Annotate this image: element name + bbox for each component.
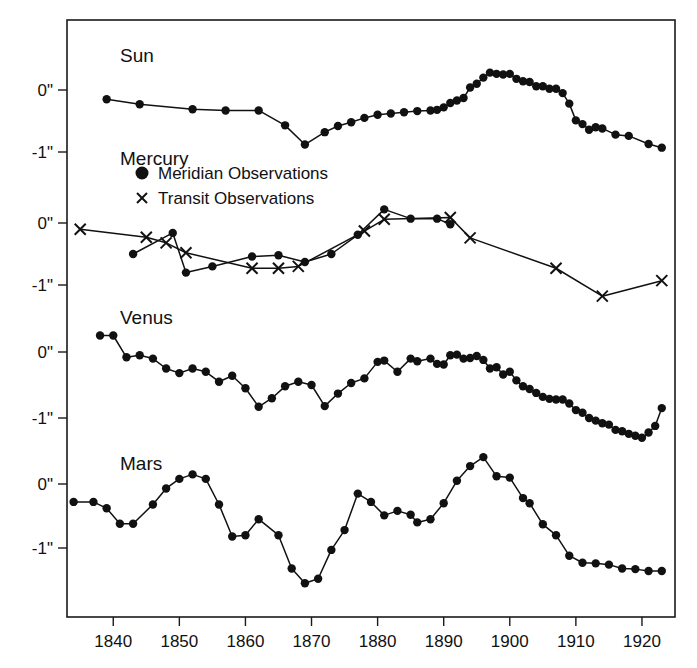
x-tick-label: 1910 <box>557 632 595 651</box>
x-tick-label: 1870 <box>293 632 331 651</box>
data-point-marker-dot <box>479 356 487 364</box>
observations-chart: 184018501860187018801890190019101920 0"-… <box>0 0 697 668</box>
panel-venus <box>96 331 666 442</box>
series-line <box>100 336 662 438</box>
data-point-marker-dot <box>631 565 639 573</box>
legend-filled-circle-icon <box>136 167 149 180</box>
x-axis-ticks <box>113 617 642 626</box>
data-point-marker-dot <box>175 369 183 377</box>
y-axis-tick-labels: 0"-1"0"-1"0"-1"0"-1" <box>32 81 53 558</box>
data-point-marker-dot <box>473 80 481 88</box>
data-point-marker-dot <box>625 132 633 140</box>
data-point-marker-dot <box>314 575 322 583</box>
data-point-marker-dot <box>169 229 177 237</box>
data-point-marker-dot <box>109 331 117 339</box>
data-point-marker-dot <box>638 434 646 442</box>
data-point-marker-dot <box>162 484 170 492</box>
data-point-marker-dot <box>605 560 613 568</box>
data-point-marker-dot <box>380 511 388 519</box>
y-tick-label: -1" <box>32 276 53 295</box>
data-point-marker-dot <box>644 567 652 575</box>
data-point-marker-dot <box>466 462 474 470</box>
data-point-marker-x <box>359 226 370 237</box>
data-point-marker-dot <box>287 564 295 572</box>
x-tick-label: 1880 <box>359 632 397 651</box>
data-point-marker-dot <box>354 489 362 497</box>
data-point-marker-dot <box>347 379 355 387</box>
data-point-marker-dot <box>149 500 157 508</box>
data-point-marker-dot <box>347 118 355 126</box>
data-point-marker-dot <box>135 351 143 359</box>
data-point-marker-dot <box>519 494 527 502</box>
x-tick-label: 1850 <box>160 632 198 651</box>
data-point-marker-dot <box>340 526 348 534</box>
data-point-marker-dot <box>433 214 441 222</box>
data-point-marker-dot <box>479 453 487 461</box>
series-venus-meridian <box>96 331 666 442</box>
data-point-marker-dot <box>413 357 421 365</box>
data-point-marker-dot <box>202 368 210 376</box>
data-point-marker-dot <box>380 356 388 364</box>
y-tick-label: 0" <box>38 475 54 494</box>
x-tick-label: 1900 <box>491 632 529 651</box>
data-point-marker-dot <box>565 551 573 559</box>
data-point-marker-dot <box>228 372 236 380</box>
data-point-marker-dot <box>274 531 282 539</box>
data-point-marker-dot <box>492 472 500 480</box>
y-tick-label: 0" <box>38 343 54 362</box>
series-mercury-meridian <box>129 205 455 277</box>
data-point-marker-dot <box>558 89 566 97</box>
chart-container: 184018501860187018801890190019101920 0"-… <box>0 0 697 668</box>
data-point-marker-dot <box>274 251 282 259</box>
data-point-marker-dot <box>565 399 573 407</box>
data-point-marker-dot <box>658 567 666 575</box>
data-point-marker-dot <box>215 500 223 508</box>
y-tick-label: -1" <box>32 409 53 428</box>
series-line <box>74 457 662 583</box>
data-point-marker-dot <box>307 381 315 389</box>
data-point-marker-dot <box>512 376 520 384</box>
data-point-marker-dot <box>618 564 626 572</box>
data-point-marker-dot <box>334 389 342 397</box>
data-point-marker-dot <box>373 111 381 119</box>
data-point-marker-dot <box>360 114 368 122</box>
y-tick-label: 0" <box>38 81 54 100</box>
data-point-marker-dot <box>221 106 229 114</box>
series-sun-meridian <box>102 68 666 151</box>
legend-label-transit: Transit Observations <box>158 189 314 208</box>
data-point-marker-dot <box>228 532 236 540</box>
data-point-marker-dot <box>254 106 262 114</box>
x-tick-label: 1890 <box>425 632 463 651</box>
data-point-marker-dot <box>254 515 262 523</box>
data-point-marker-dot <box>605 420 613 428</box>
data-point-marker-x <box>551 263 562 274</box>
data-point-marker-dot <box>552 531 560 539</box>
panel-title-sun: Sun <box>120 45 154 66</box>
data-point-marker-dot <box>506 473 514 481</box>
series-line <box>80 217 662 296</box>
data-point-marker-dot <box>658 404 666 412</box>
data-point-marker-dot <box>644 140 652 148</box>
data-point-marker-dot <box>591 559 599 567</box>
data-point-marker-dot <box>360 374 368 382</box>
data-point-marker-dot <box>565 99 573 107</box>
data-point-marker-dot <box>162 364 170 372</box>
data-point-marker-dot <box>525 499 533 507</box>
data-point-marker-dot <box>188 105 196 113</box>
data-point-marker-dot <box>400 108 408 116</box>
data-point-marker-dot <box>439 360 447 368</box>
data-point-marker-dot <box>281 121 289 129</box>
data-point-marker-dot <box>129 250 137 258</box>
series-mercury-transit <box>75 212 668 302</box>
data-point-marker-dot <box>254 403 262 411</box>
data-point-marker-dot <box>598 124 606 132</box>
data-point-marker-dot <box>406 511 414 519</box>
x-tick-label: 1860 <box>227 632 265 651</box>
data-point-marker-dot <box>268 394 276 402</box>
data-point-marker-dot <box>202 475 210 483</box>
data-point-marker-dot <box>506 368 514 376</box>
data-point-marker-dot <box>208 262 216 270</box>
data-point-marker-dot <box>492 363 500 371</box>
data-point-marker-dot <box>116 519 124 527</box>
data-point-marker-dot <box>96 331 104 339</box>
